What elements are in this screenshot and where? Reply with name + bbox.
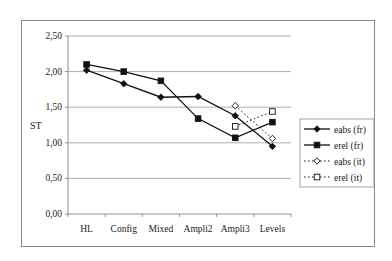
square-marker bbox=[270, 109, 276, 115]
x-category-label: Levels bbox=[260, 224, 286, 234]
square-marker bbox=[121, 69, 127, 75]
x-category-label: HL bbox=[80, 224, 93, 234]
line-chart: 0,000,501,001,502,002,50 HLConfigMixedAm… bbox=[0, 0, 392, 261]
legend: eabs (fr)erel (fr)eabs (it)erel (it) bbox=[300, 119, 374, 187]
diamond-marker bbox=[121, 81, 127, 87]
y-tick-label: 1,50 bbox=[45, 102, 62, 112]
x-category-label: Mixed bbox=[149, 224, 174, 234]
y-tick-label: 2,00 bbox=[45, 67, 62, 77]
series-erel-fr bbox=[84, 62, 275, 141]
y-axis: 0,000,501,001,502,002,50 bbox=[45, 31, 68, 219]
y-axis-title: ST bbox=[30, 120, 42, 131]
square-marker bbox=[232, 124, 238, 130]
legend-label: erel (it) bbox=[334, 173, 362, 184]
square-marker bbox=[314, 142, 320, 148]
y-tick-label: 1,00 bbox=[45, 138, 62, 148]
square-marker bbox=[84, 62, 90, 68]
square-marker bbox=[195, 116, 201, 122]
x-category-label: Config bbox=[111, 224, 138, 234]
diamond-marker bbox=[83, 67, 89, 73]
x-category-label: Ampli3 bbox=[221, 224, 250, 234]
square-marker bbox=[270, 119, 276, 125]
legend-label: eabs (it) bbox=[334, 157, 365, 168]
legend-label: eabs (fr) bbox=[334, 125, 366, 136]
y-tick-label: 2,50 bbox=[45, 31, 62, 41]
x-category-label: Ampli2 bbox=[184, 224, 213, 234]
series-eabs-fr bbox=[83, 67, 275, 150]
diamond-marker bbox=[269, 135, 275, 141]
square-marker bbox=[232, 135, 238, 141]
legend-label: erel (fr) bbox=[334, 141, 363, 152]
square-marker bbox=[158, 78, 164, 84]
diamond-marker bbox=[232, 103, 238, 109]
y-tick-label: 0,00 bbox=[45, 209, 62, 219]
series-lines bbox=[83, 62, 275, 150]
square-marker bbox=[314, 174, 320, 180]
diamond-marker bbox=[158, 94, 164, 100]
x-axis: HLConfigMixedAmpli2Ampli3Levels bbox=[68, 214, 291, 234]
gridlines bbox=[68, 36, 291, 178]
diamond-marker bbox=[195, 93, 201, 99]
y-tick-label: 0,50 bbox=[45, 173, 62, 183]
